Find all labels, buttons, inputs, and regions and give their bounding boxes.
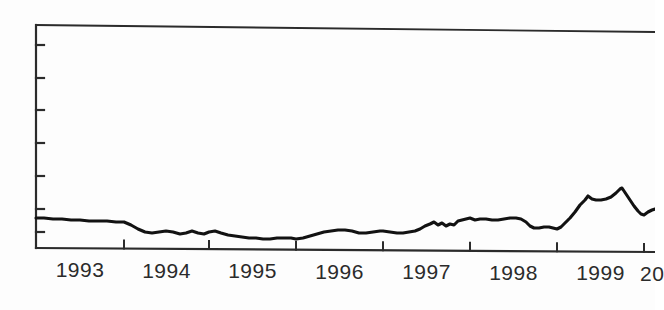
- x-axis-tick-label: 1998: [489, 261, 538, 285]
- x-axis-tick-label: 1995: [228, 259, 277, 283]
- x-axis-tick-label: 1993: [56, 258, 105, 282]
- x-axis-tick-label: 1997: [402, 260, 451, 284]
- x-axis-tick-label: 20: [640, 262, 664, 286]
- x-axis-tick-label: 1996: [315, 260, 364, 284]
- x-axis-tick-label: 1994: [142, 259, 191, 283]
- x-axis-tick-label: 1999: [576, 261, 625, 285]
